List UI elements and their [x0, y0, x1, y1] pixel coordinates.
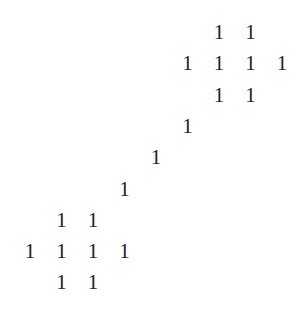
- matrix-entry: 1: [178, 51, 198, 75]
- matrix-entry: 1: [83, 208, 103, 232]
- matrix-entry: 1: [272, 51, 292, 75]
- sparse-matrix: 1111111111111111111: [0, 0, 299, 317]
- matrix-entry: 1: [52, 270, 72, 294]
- matrix-entry: 1: [209, 20, 229, 44]
- matrix-entry: 1: [241, 83, 261, 107]
- matrix-entry: 1: [115, 239, 135, 263]
- matrix-entry: 1: [178, 114, 198, 138]
- matrix-entry: 1: [20, 239, 40, 263]
- matrix-entry: 1: [146, 145, 166, 169]
- matrix-entry: 1: [209, 83, 229, 107]
- matrix-entry: 1: [83, 239, 103, 263]
- matrix-entry: 1: [52, 208, 72, 232]
- matrix-entry: 1: [209, 51, 229, 75]
- matrix-entry: 1: [241, 51, 261, 75]
- matrix-entry: 1: [241, 20, 261, 44]
- matrix-entry: 1: [52, 239, 72, 263]
- matrix-entry: 1: [115, 177, 135, 201]
- matrix-entry: 1: [83, 270, 103, 294]
